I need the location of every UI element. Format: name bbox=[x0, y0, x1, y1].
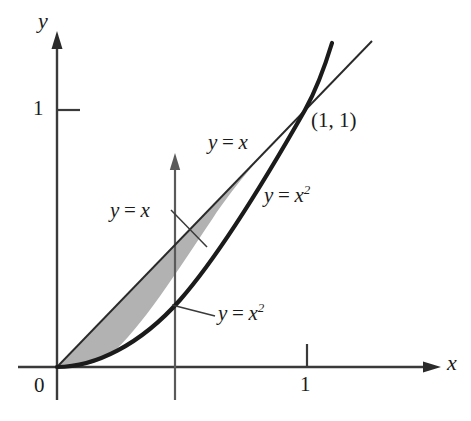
diagram-svg bbox=[0, 0, 471, 421]
label-lhs: y bbox=[208, 130, 217, 154]
label-equals: = bbox=[232, 301, 244, 325]
label-equals: = bbox=[124, 198, 136, 222]
y-axis-label: y bbox=[38, 10, 48, 32]
label-exponent: 2 bbox=[258, 300, 265, 315]
label-equals: = bbox=[278, 183, 290, 207]
label-rhs: x bbox=[238, 130, 247, 154]
label-lhs: y bbox=[218, 301, 227, 325]
label-rhs: x bbox=[140, 198, 149, 222]
leader-line-y-equals-x-squared bbox=[172, 305, 215, 316]
curve-label-y-equals-x-squared-lower: y=x2 bbox=[218, 303, 264, 324]
label-lhs: y bbox=[110, 198, 119, 222]
y-axis-tick-label-1: 1 bbox=[33, 98, 44, 119]
y-axis-arrowhead bbox=[52, 31, 63, 49]
curve-label-y-equals-x-upper: y=x bbox=[208, 132, 248, 153]
label-rhs: x bbox=[248, 301, 257, 325]
origin-label: 0 bbox=[34, 375, 45, 396]
label-rhs: x bbox=[294, 183, 303, 207]
curve-y-equals-x bbox=[57, 41, 372, 367]
label-exponent: 2 bbox=[304, 182, 311, 197]
x-axis-arrowhead bbox=[423, 362, 441, 373]
curve-label-y-equals-x-squared-upper: y=x2 bbox=[264, 185, 310, 206]
curve-label-y-equals-x-lower: y=x bbox=[110, 200, 150, 221]
x-axis-label: x bbox=[447, 352, 457, 374]
label-equals: = bbox=[222, 130, 234, 154]
figure-canvas: y x 1 1 0 (1, 1) y=x y=x2 y=x y=x2 bbox=[0, 0, 471, 421]
intersection-point-label: (1, 1) bbox=[311, 110, 357, 131]
x-axis-tick-label-1: 1 bbox=[300, 374, 311, 395]
label-lhs: y bbox=[264, 183, 273, 207]
inner-vertical-axis-arrowhead bbox=[170, 153, 180, 170]
